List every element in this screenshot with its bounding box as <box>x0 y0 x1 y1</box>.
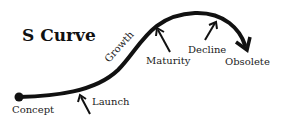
stage-label-decline: Decline <box>188 44 226 55</box>
stage-label-growth: Growth <box>102 28 136 64</box>
stage-label-maturity: Maturity <box>146 55 191 66</box>
maturity-arrow <box>156 28 170 52</box>
diagram-title: S Curve <box>22 25 96 45</box>
stage-label-launch: Launch <box>92 96 130 107</box>
s-curve-diagram: S Curve Concept Launch Growth Maturity D… <box>0 0 282 125</box>
launch-arrow <box>78 95 90 114</box>
concept-dot <box>15 93 24 102</box>
stage-label-obsolete: Obsolete <box>225 56 270 67</box>
stage-label-concept: Concept <box>12 104 54 115</box>
decline-arrow <box>205 22 217 40</box>
